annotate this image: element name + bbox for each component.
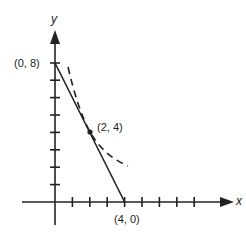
tangent-point-label: (2, 4) — [97, 121, 123, 133]
x-intercept-label: (4, 0) — [114, 213, 140, 225]
y-intercept-label: (0, 8) — [14, 57, 40, 69]
y-axis-arrow-icon — [50, 30, 60, 44]
y-axis-label: y — [51, 12, 57, 26]
x-axis-label: x — [236, 194, 242, 208]
dashed-curve — [68, 67, 128, 166]
x-axis-arrow-icon — [220, 197, 234, 207]
tangent-point-dot — [87, 129, 92, 134]
diagram-canvas — [0, 0, 246, 239]
